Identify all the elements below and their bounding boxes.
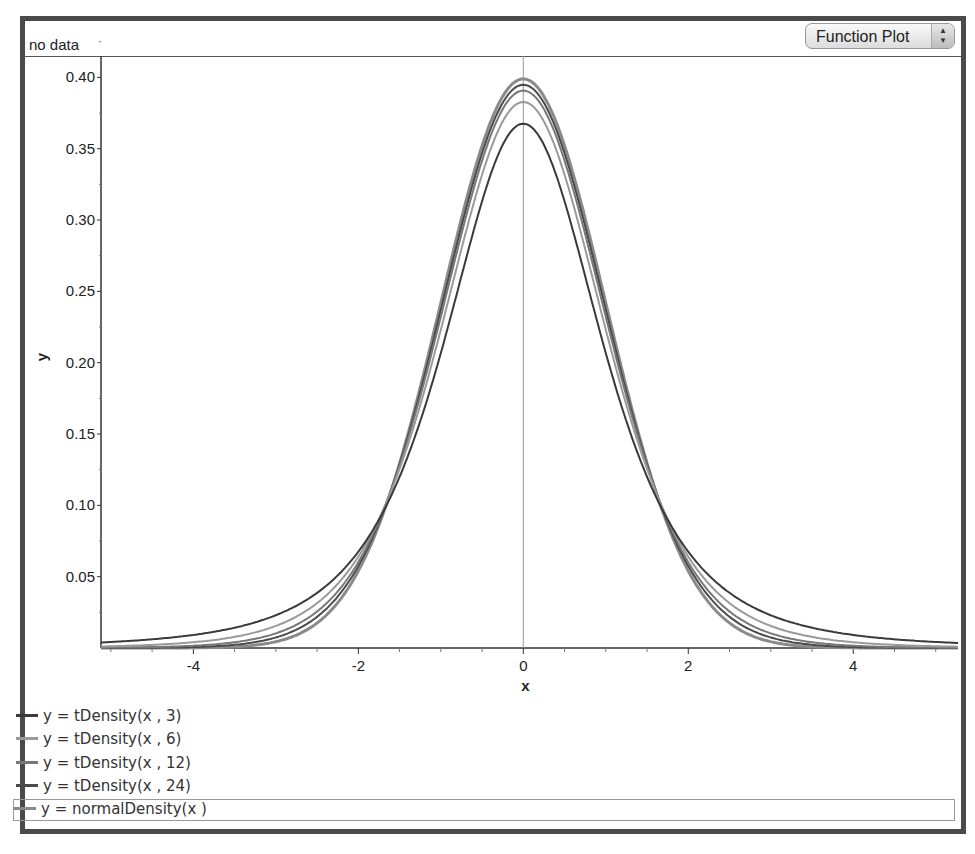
- y-tick-label: 0.05: [66, 568, 95, 585]
- y-tick-label: 0.20: [66, 354, 95, 371]
- y-tick-label: 0.25: [66, 282, 95, 299]
- y-tick-label: 0.30: [66, 211, 95, 228]
- axes: 0.050.100.150.200.250.300.350.40-4-2024x…: [33, 42, 958, 694]
- legend-label: y = tDensity(x , 6): [43, 730, 181, 748]
- curve-12: [101, 91, 958, 648]
- curves: [101, 79, 958, 648]
- legend-label: y = tDensity(x , 12): [43, 754, 191, 772]
- x-tick-label: 2: [684, 657, 692, 674]
- legend-item-t6[interactable]: y = tDensity(x , 6): [16, 730, 181, 750]
- y-tick-label: 0.10: [66, 496, 95, 513]
- y-tick-label: 0.40: [66, 68, 95, 85]
- x-tick-label: 4: [849, 657, 857, 674]
- x-axis-label: x: [521, 677, 530, 694]
- y-tick-label: 0.35: [66, 140, 95, 157]
- legend-swatch: [14, 807, 36, 810]
- x-tick-label: -4: [187, 657, 200, 674]
- legend-swatch: [16, 761, 38, 764]
- legend-item-t24[interactable]: y = tDensity(x , 24): [16, 777, 191, 797]
- y-tick-label: 0.15: [66, 425, 95, 442]
- legend-item-t12[interactable]: y = tDensity(x , 12): [16, 754, 191, 774]
- legend-swatch: [16, 714, 38, 717]
- legend-item-t3[interactable]: y = tDensity(x , 3): [16, 707, 181, 727]
- x-tick-label: -2: [352, 657, 365, 674]
- legend-label: y = normalDensity(x ): [41, 800, 207, 818]
- x-tick-label: 0: [519, 657, 527, 674]
- curve-6: [101, 102, 958, 647]
- legend-label: y = tDensity(x , 24): [43, 777, 191, 795]
- legend-swatch: [16, 784, 38, 787]
- legend-swatch: [16, 737, 38, 740]
- legend-item-normal[interactable]: y = normalDensity(x ): [14, 800, 954, 820]
- curve-normal: [101, 79, 958, 648]
- legend-label: y = tDensity(x , 3): [43, 707, 181, 725]
- y-axis-label: y: [33, 352, 50, 361]
- curve-24: [101, 85, 958, 648]
- curve-3: [101, 124, 958, 643]
